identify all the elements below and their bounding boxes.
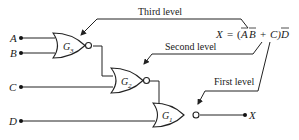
svg-text:=: = <box>227 28 233 40</box>
svg-text:D: D <box>280 28 289 40</box>
input-c-label: C <box>9 81 17 93</box>
input-c-terminal <box>19 85 23 89</box>
svg-text:+: + <box>260 28 266 40</box>
svg-text:2: 2 <box>128 82 132 90</box>
input-d-label: D <box>8 115 17 127</box>
svg-text:B: B <box>249 28 256 40</box>
svg-text:X: X <box>215 28 224 40</box>
gate-g2: G 2 <box>111 68 150 93</box>
input-a-terminal <box>19 36 23 40</box>
svg-text:C): C) <box>270 28 281 41</box>
gate-g3: G 3 <box>53 33 92 58</box>
input-d-terminal <box>19 119 23 123</box>
input-b-terminal <box>19 51 23 55</box>
output-x-terminal <box>243 113 247 117</box>
svg-text:A: A <box>240 28 248 40</box>
svg-text:1: 1 <box>169 116 173 124</box>
output-x-label: X <box>248 109 257 121</box>
svg-text:3: 3 <box>69 47 74 55</box>
third-level-label: Third level <box>138 6 182 17</box>
second-level-label: Second level <box>165 41 217 52</box>
gate-g1: G 1 <box>153 103 199 127</box>
first-level-label: First level <box>214 76 254 87</box>
input-b-label: B <box>10 47 17 59</box>
input-a-label: A <box>9 32 17 44</box>
logic-circuit-diagram: A B C D X G 3 G 2 G 1 Third level Second… <box>0 0 299 140</box>
boolean-equation: X = ( A B + C) D <box>215 28 289 41</box>
